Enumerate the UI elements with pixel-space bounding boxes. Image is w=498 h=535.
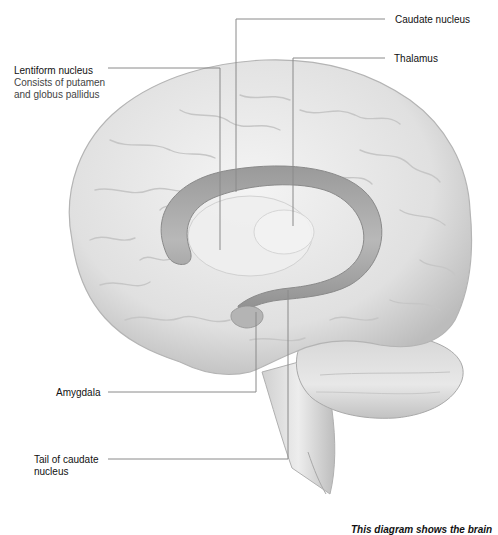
diagram-caption: This diagram shows the brain	[351, 524, 492, 535]
lentiform-description-line1: Consists of putamen	[14, 77, 105, 89]
label-thalamus: Thalamus	[394, 53, 438, 65]
lentiform-description-line2: and globus pallidus	[14, 89, 105, 101]
thalamus-shape	[254, 210, 314, 254]
tail-title-line1: Tail of caudate	[34, 454, 99, 466]
label-amygdala: Amygdala	[56, 387, 100, 399]
label-tail-of-caudate-nucleus: Tail of caudate nucleus	[34, 454, 99, 478]
label-caudate-nucleus: Caudate nucleus	[395, 14, 470, 26]
tail-title-line2: nucleus	[34, 466, 99, 478]
thalamus-title: Thalamus	[394, 53, 438, 65]
caudate-title: Caudate nucleus	[395, 14, 470, 26]
amygdala-shape	[231, 306, 263, 328]
lentiform-title: Lentiform nucleus	[14, 65, 105, 77]
amygdala-title: Amygdala	[56, 387, 100, 399]
label-lentiform-nucleus: Lentiform nucleus Consists of putamen an…	[14, 65, 105, 101]
